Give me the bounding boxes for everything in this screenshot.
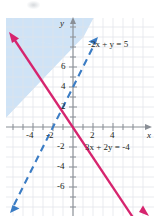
graph-figure: y x -4 -2 2 4 6 4 2 -2 -4 -6 -2x + y = 5… bbox=[0, 0, 160, 221]
coordinate-plane-svg bbox=[0, 0, 160, 221]
